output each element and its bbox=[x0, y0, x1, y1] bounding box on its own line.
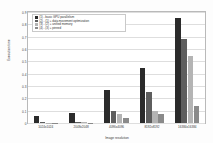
bar[interactable] bbox=[117, 114, 123, 123]
bar[interactable] bbox=[158, 114, 164, 123]
bar[interactable] bbox=[81, 122, 87, 123]
bar[interactable] bbox=[152, 111, 158, 123]
bar[interactable] bbox=[75, 122, 81, 123]
legend-label: (4) - (3) + pinned bbox=[39, 27, 61, 30]
bar-chart-figure: Execution time Image resolution 00.10.20… bbox=[0, 0, 213, 143]
y-axis-tick-label: 0.8 bbox=[22, 23, 26, 27]
legend-swatch-icon bbox=[35, 27, 38, 29]
y-axis-tick-label: 0.9 bbox=[22, 11, 26, 15]
bar[interactable] bbox=[111, 111, 117, 123]
x-axis-label: Image resolution bbox=[28, 136, 206, 140]
legend-swatch-icon bbox=[35, 20, 38, 22]
bar[interactable] bbox=[104, 90, 110, 123]
bar[interactable] bbox=[146, 92, 152, 123]
bar-group: 16384x16384 bbox=[170, 12, 205, 123]
y-axis-tick-label: 0 bbox=[25, 122, 27, 126]
bar[interactable] bbox=[194, 106, 200, 123]
bar[interactable] bbox=[140, 68, 146, 124]
bar[interactable] bbox=[123, 118, 129, 123]
bar[interactable] bbox=[52, 123, 58, 124]
bar[interactable] bbox=[34, 116, 40, 123]
y-axis-tick-label: 0.7 bbox=[22, 36, 26, 40]
legend-swatch-icon bbox=[35, 23, 38, 25]
y-axis-tick-label: 0.1 bbox=[22, 110, 26, 114]
bar[interactable] bbox=[69, 113, 75, 123]
bar[interactable] bbox=[46, 123, 52, 124]
bar[interactable] bbox=[40, 122, 46, 123]
y-axis-tick-label: 0.5 bbox=[22, 60, 26, 64]
y-axis-tick-label: 0.3 bbox=[22, 85, 26, 89]
x-axis-tick-label: 1024x1024 bbox=[38, 125, 53, 129]
bar-group: 8192x8192 bbox=[134, 12, 169, 123]
y-axis-label: Execution time bbox=[7, 24, 11, 76]
legend-swatch-icon bbox=[35, 16, 38, 18]
x-axis-tick-label: 16384x16384 bbox=[178, 125, 196, 129]
x-axis-tick-label: 8192x8192 bbox=[144, 125, 159, 129]
legend-item[interactable]: (4) - (3) + pinned bbox=[35, 26, 124, 30]
y-axis-tick-label: 0.2 bbox=[22, 97, 26, 101]
x-axis-tick-label: 2048x2048 bbox=[74, 125, 89, 129]
y-axis-tick-label: 0.4 bbox=[22, 73, 26, 77]
y-axis-tick-label: 0.6 bbox=[22, 48, 26, 52]
bar[interactable] bbox=[188, 56, 194, 123]
x-axis-tick-label: 4096x4096 bbox=[109, 125, 124, 129]
bar[interactable] bbox=[181, 39, 187, 123]
bar[interactable] bbox=[175, 18, 181, 123]
bar[interactable] bbox=[88, 123, 94, 124]
chart-legend: (1) - basic GPU parallelism(2) - (1) + d… bbox=[32, 14, 126, 33]
